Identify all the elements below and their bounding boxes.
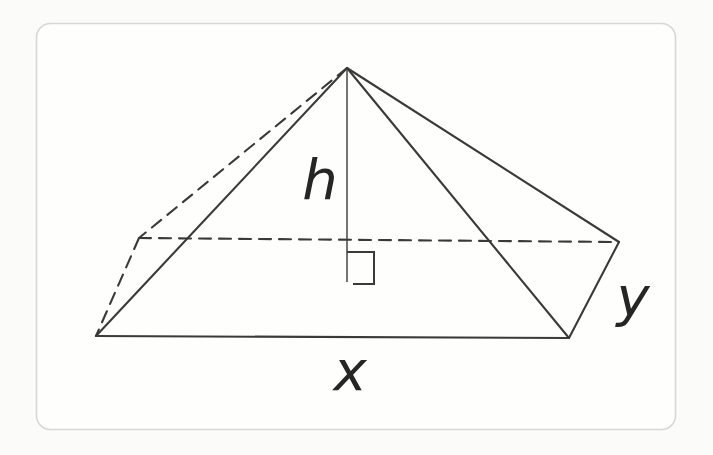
label-height: h [302, 147, 338, 212]
page: h x y [0, 0, 713, 455]
label-base-side: y [614, 264, 650, 329]
label-base-front: x [331, 338, 367, 403]
pyramid-diagram: h x y [0, 0, 713, 455]
